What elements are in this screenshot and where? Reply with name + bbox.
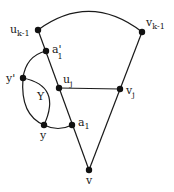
node-a1prime bbox=[43, 48, 49, 54]
graph-diagram: uk-1 vk-1 a'1 y' uj vj y a1 v Y bbox=[0, 0, 174, 192]
label-vj: vj bbox=[125, 84, 135, 99]
label-uj: uj bbox=[63, 73, 73, 88]
label-a1: a1 bbox=[78, 116, 90, 131]
edge-y-a1 bbox=[44, 125, 72, 129]
label-vk1: vk-1 bbox=[145, 16, 165, 31]
node-y bbox=[41, 122, 47, 128]
label-yprime: y' bbox=[5, 72, 15, 85]
node-vk1 bbox=[139, 29, 145, 35]
edge-uk1-vk1 bbox=[38, 11, 142, 32]
node-yprime bbox=[20, 75, 26, 81]
label-y: y bbox=[39, 129, 47, 142]
label-a1prime: a'1 bbox=[52, 43, 63, 61]
edge-vk1-v bbox=[89, 32, 142, 170]
node-v bbox=[86, 167, 92, 173]
edge-a1p-yp bbox=[23, 51, 46, 78]
edge-uj-vj bbox=[59, 88, 120, 89]
label-v: v bbox=[85, 174, 93, 187]
node-vj bbox=[117, 86, 123, 92]
node-a1 bbox=[69, 122, 75, 128]
label-region-Y: Y bbox=[36, 90, 45, 103]
label-uk1: uk-1 bbox=[10, 23, 30, 38]
node-uk1 bbox=[35, 27, 41, 33]
node-uj bbox=[56, 85, 62, 91]
